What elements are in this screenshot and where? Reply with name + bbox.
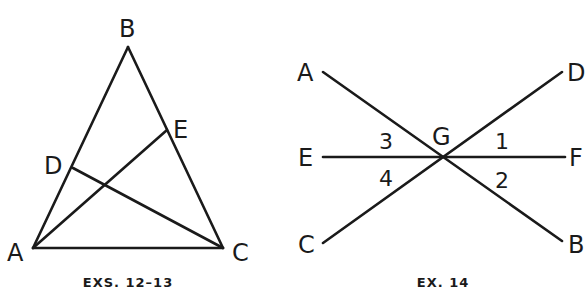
segment-AB bbox=[33, 47, 128, 248]
angle-label-3: 3 bbox=[379, 129, 393, 154]
point-label-E: E bbox=[173, 116, 188, 144]
point-label-D: D bbox=[567, 59, 585, 87]
point-label-B: B bbox=[568, 231, 584, 259]
segment-CD bbox=[73, 168, 223, 248]
point-label-B: B bbox=[119, 15, 135, 43]
figure-intersecting-lines: A D E F C B G 3 4 1 2 EX. 14 bbox=[297, 59, 585, 290]
point-label-D: D bbox=[44, 152, 62, 180]
angle-label-1: 1 bbox=[495, 129, 509, 154]
segment-AE bbox=[33, 130, 167, 248]
segment-BC bbox=[128, 47, 223, 248]
point-label-C: C bbox=[232, 239, 249, 267]
figure-triangle: B E D A C EXS. 12–13 bbox=[7, 15, 249, 290]
figure-caption: EXS. 12–13 bbox=[83, 275, 173, 290]
point-label-A: A bbox=[7, 239, 24, 267]
angle-label-2: 2 bbox=[495, 168, 509, 193]
figure-caption: EX. 14 bbox=[417, 275, 469, 290]
point-label-E: E bbox=[298, 144, 313, 172]
point-label-C: C bbox=[298, 231, 315, 259]
point-label-A: A bbox=[297, 59, 314, 87]
angle-label-4: 4 bbox=[379, 166, 393, 191]
point-label-F: F bbox=[569, 144, 583, 172]
point-label-G: G bbox=[432, 123, 451, 151]
geometry-diagrams: B E D A C EXS. 12–13 A D E F C B G 3 4 1… bbox=[0, 0, 586, 299]
